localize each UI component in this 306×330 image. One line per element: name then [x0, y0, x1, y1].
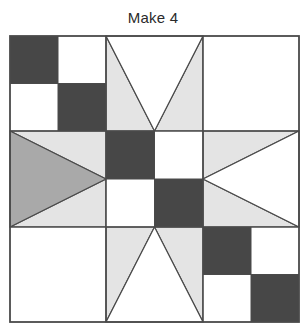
cell-middle-right-star-point [203, 131, 299, 227]
white-square [58, 36, 106, 84]
cell-top-center-star-point [106, 36, 203, 131]
cell-top-right-plain [203, 36, 299, 131]
quilt-block-diagram [0, 0, 306, 330]
white-square [203, 275, 251, 323]
cell-middle-left-star-point [10, 131, 106, 227]
dark-square [203, 227, 251, 275]
white-square [106, 179, 155, 227]
white-square [251, 227, 299, 275]
white-square [155, 131, 204, 179]
cell-bottom-center-star-point [106, 227, 203, 322]
dark-square [155, 179, 204, 227]
white-square [10, 84, 58, 132]
cell-bottom-left-plain [10, 227, 106, 322]
dark-square [10, 36, 58, 84]
dark-square [106, 131, 155, 179]
dark-square [58, 84, 106, 132]
dark-square [251, 275, 299, 323]
